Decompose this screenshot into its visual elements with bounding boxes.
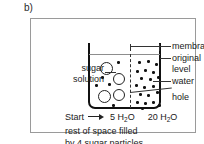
water-particle <box>135 84 138 87</box>
water-particle <box>108 83 111 86</box>
sugar-solution-label-line2: solution <box>73 74 104 84</box>
water-particle <box>155 63 158 66</box>
water-particle <box>140 77 143 80</box>
caption-line-3: by 4 sugar particles <box>65 137 177 144</box>
water-particle <box>117 61 120 64</box>
right-arrow-icon <box>88 113 104 120</box>
callout-hole: hole <box>172 92 189 103</box>
sugar-solution-leader-line <box>105 72 116 73</box>
water-particle <box>152 85 155 88</box>
figure-root: b) sugar solution membrane original leve… <box>0 0 204 144</box>
start-row: Start 5 H2O 20 H2O <box>65 111 177 125</box>
part-label: b) <box>24 2 33 14</box>
callout-original-level-line1: original <box>172 53 201 64</box>
original-level-leader-line <box>160 58 171 59</box>
caption-block: Start 5 H2O 20 H2O rest of space filled … <box>65 111 177 144</box>
water-particle <box>157 76 160 79</box>
water-particle <box>144 69 147 72</box>
water-particle <box>138 61 141 64</box>
sugar-solution-label: sugar solution <box>64 63 104 85</box>
water-particle <box>139 93 142 96</box>
water-leader-line <box>153 81 171 82</box>
right-amount-label: 20 H2O <box>148 111 178 125</box>
sugar-solution-label-line1: sugar <box>81 63 104 73</box>
membrane-extent-bar <box>130 46 160 47</box>
callout-original-level-line2: level <box>172 64 191 75</box>
sugar-particle <box>113 73 125 85</box>
water-particle <box>152 101 155 104</box>
water-particle <box>147 60 150 63</box>
water-particle <box>141 107 144 110</box>
water-particle <box>136 70 139 73</box>
water-particle <box>147 94 150 97</box>
water-particle <box>143 86 146 89</box>
water-particle <box>144 102 147 105</box>
start-label: Start <box>65 111 84 124</box>
water-particle <box>149 78 152 81</box>
callout-water: water <box>172 76 194 87</box>
figure-panel: sugar solution membrane original level w… <box>30 18 196 133</box>
left-amount-label: 5 H2O <box>110 111 135 125</box>
water-particle <box>136 101 139 104</box>
water-particle <box>112 104 115 107</box>
membrane-leader-line <box>160 46 171 47</box>
sugar-particle <box>113 89 125 101</box>
membrane-divider <box>130 54 131 108</box>
sugar-particle <box>98 90 111 103</box>
original-level-line <box>89 54 160 55</box>
water-particle <box>156 91 159 94</box>
caption-line-2: rest of space filled <box>65 125 177 138</box>
water-particle <box>152 71 155 74</box>
callout-membrane: membrane <box>172 41 204 52</box>
water-particle <box>158 104 161 107</box>
